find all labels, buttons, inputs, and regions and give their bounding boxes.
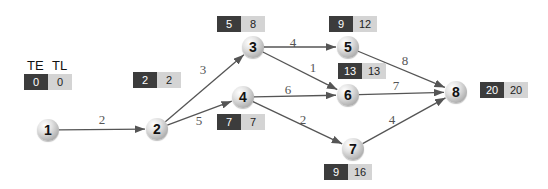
time-box-node-2: 22 [133,72,181,88]
edge-weight-label: 5 [196,113,203,129]
te-value: 5 [217,16,241,32]
te-value: 2 [133,72,157,88]
edge-1-2 [59,129,145,130]
time-box-node-8: 2020 [480,82,528,98]
node-8: 8 [445,81,467,103]
node-5: 5 [337,36,359,58]
time-box-node-3: 58 [217,16,265,32]
time-box-node-6: 1313 [338,63,386,79]
edge-3-6 [263,52,337,90]
node-7: 7 [342,138,364,160]
te-value: 13 [338,63,362,79]
edge-weight-label: 7 [393,78,400,94]
edge-weight-label: 6 [285,82,292,98]
edge-weight-label: 8 [402,53,409,69]
edge-weight-label: 2 [99,112,106,128]
te-value: 20 [480,82,504,98]
edge-7-8 [363,98,446,144]
tl-value: 20 [504,82,528,98]
te-value: 9 [324,164,348,180]
node-4: 4 [232,86,254,108]
te-value: 7 [217,114,241,130]
node-6: 6 [337,84,359,106]
edge-weight-label: 3 [200,62,207,78]
tl-value: 2 [157,72,181,88]
time-box-node-4: 77 [217,114,265,130]
tl-value: 7 [241,114,265,130]
node-1: 1 [37,119,59,141]
tl-value: 13 [362,63,386,79]
tl-value: 16 [348,164,372,180]
tl-header: TL [52,58,67,73]
node-3: 3 [242,36,264,58]
edge-4-6 [254,95,336,97]
te-value: 9 [329,16,353,32]
edge-4-7 [253,102,342,144]
time-box-node-1: 00 [24,74,72,90]
time-box-node-5: 912 [329,16,377,32]
tl-value: 8 [241,16,265,32]
node-2: 2 [146,118,168,140]
edge-6-8 [359,92,444,94]
tl-value: 12 [353,16,377,32]
edge-weight-label: 4 [290,35,297,51]
edge-weight-label: 4 [389,112,396,128]
edge-weight-label: 1 [310,60,317,76]
edge-weight-label: 2 [300,112,307,128]
tl-value: 0 [48,74,72,90]
time-box-node-7: 916 [324,164,372,180]
te-header: TE [27,58,44,73]
te-value: 0 [24,74,48,90]
